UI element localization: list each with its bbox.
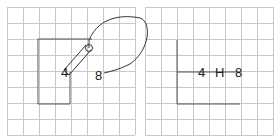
label-h-right: H	[215, 65, 224, 80]
grid-right	[145, 7, 274, 136]
label-8-right: 8	[235, 65, 242, 80]
diagram-canvas: 4 8 4 H 8	[0, 0, 274, 140]
label-4-right: 4	[198, 65, 205, 80]
strip-object	[64, 40, 93, 75]
outline-right	[177, 40, 240, 104]
label-8-left: 8	[95, 68, 102, 83]
grid-left	[7, 7, 136, 136]
loop-curve	[89, 17, 147, 73]
label-4-left: 4	[61, 65, 68, 80]
